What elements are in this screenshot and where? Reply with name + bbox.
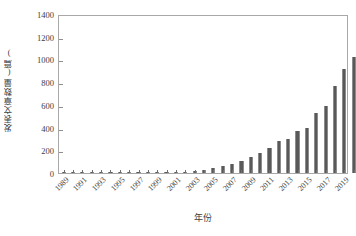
x-tick-mark (157, 170, 158, 173)
y-tick-mark (59, 107, 63, 108)
x-tick-mark (288, 170, 289, 173)
x-tick-mark (223, 170, 224, 173)
chart-figure: 发表文章数量(篇) 1400120010008006004002000 1989… (0, 0, 356, 236)
x-tick-mark (213, 170, 214, 173)
y-tick-mark (59, 130, 63, 131)
x-tick-mark (279, 170, 280, 173)
x-tick-mark (129, 170, 130, 173)
x-tick-mark (110, 170, 111, 173)
y-tick-label: 1000 (18, 56, 54, 65)
x-tick-mark (195, 170, 196, 173)
bar (286, 139, 290, 173)
y-tick-label: 1200 (18, 33, 54, 42)
y-tick-mark (59, 61, 63, 62)
bar (352, 57, 356, 173)
y-tick-label: 0 (18, 170, 54, 179)
bar (277, 141, 281, 173)
x-tick-mark (298, 170, 299, 173)
y-tick-label: 200 (18, 147, 54, 156)
y-tick-label: 400 (18, 124, 54, 133)
x-tick-mark (139, 170, 140, 173)
x-tick-mark (92, 170, 93, 173)
x-tick-mark (148, 170, 149, 173)
x-tick-mark (260, 170, 261, 173)
x-tick-mark (344, 170, 345, 173)
x-axis-tick-labels: 1989199119931995199719992001200320052007… (58, 176, 348, 210)
x-tick-mark (251, 170, 252, 173)
x-tick-mark (326, 170, 327, 173)
plot-area (58, 15, 348, 174)
x-tick-mark (335, 170, 336, 173)
bar (305, 128, 309, 173)
y-tick-mark (59, 84, 63, 85)
y-tick-mark (59, 152, 63, 153)
x-tick-mark (307, 170, 308, 173)
x-axis-title: 年份 (58, 211, 348, 224)
y-tick-mark (59, 39, 63, 40)
y-tick-label: 600 (18, 102, 54, 111)
x-tick-mark (204, 170, 205, 173)
y-axis-title: 发表文章数量(篇) (4, 36, 18, 146)
bars-layer (59, 16, 347, 173)
y-tick-label: 800 (18, 79, 54, 88)
y-axis-tick-labels: 1400120010008006004002000 (18, 15, 54, 174)
x-tick-mark (176, 170, 177, 173)
x-tick-mark (82, 170, 83, 173)
y-tick-label: 1400 (18, 11, 54, 20)
x-tick-mark (73, 170, 74, 173)
bar (324, 106, 328, 173)
bar (342, 69, 346, 173)
bar (333, 86, 337, 173)
x-tick-mark (232, 170, 233, 173)
x-tick-mark (185, 170, 186, 173)
x-tick-mark (316, 170, 317, 173)
x-tick-mark (354, 170, 355, 173)
x-tick-mark (167, 170, 168, 173)
x-tick-mark (241, 170, 242, 173)
bar (314, 113, 318, 173)
x-tick-mark (101, 170, 102, 173)
x-tick-mark (120, 170, 121, 173)
x-tick-mark (64, 170, 65, 173)
x-tick-mark (269, 170, 270, 173)
bar (295, 131, 299, 173)
